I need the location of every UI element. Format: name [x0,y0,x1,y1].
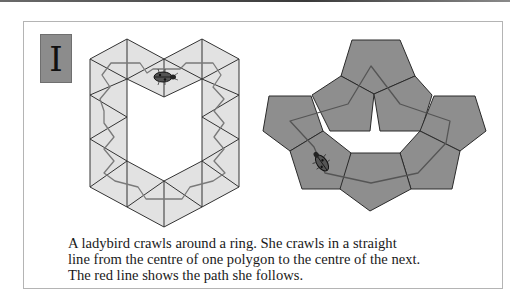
puzzle-caption: A ladybird crawls around a ring. She cra… [68,235,508,283]
caption-line-2: line from the centre of one polygon to t… [68,251,420,267]
caption-line-1: A ladybird crawls around a ring. She cra… [68,235,397,251]
caption-line-3: The red line shows the path she follows. [68,267,303,283]
pentagon-ring [263,40,486,211]
